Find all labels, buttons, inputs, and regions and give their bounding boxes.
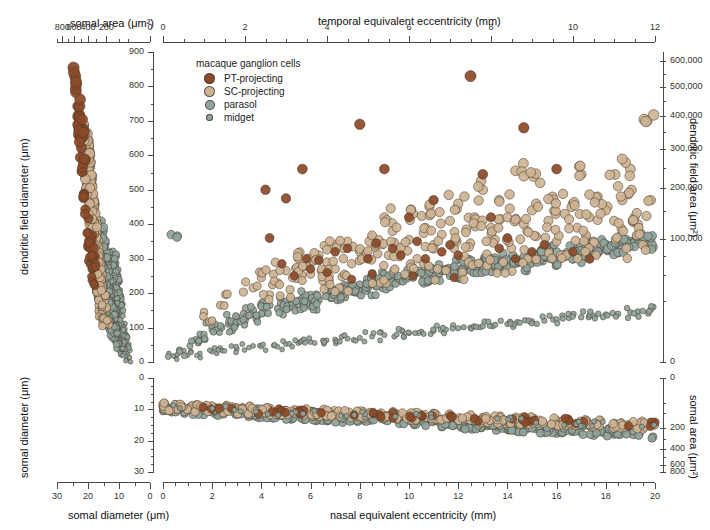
data-point	[189, 350, 194, 355]
data-point	[412, 330, 417, 335]
data-point	[281, 408, 289, 416]
data-point	[254, 319, 261, 326]
data-point	[422, 422, 430, 430]
data-point	[314, 292, 321, 299]
data-point	[520, 246, 529, 255]
data-point	[448, 413, 456, 421]
data-point	[511, 215, 520, 224]
data-point	[519, 123, 529, 133]
data-point	[368, 279, 376, 287]
data-point	[551, 225, 560, 234]
data-point	[302, 254, 311, 263]
data-point	[639, 424, 644, 429]
data-point	[238, 409, 243, 414]
data-point	[372, 239, 381, 248]
data-point	[290, 344, 295, 349]
data-point	[70, 76, 81, 87]
data-point	[624, 422, 632, 430]
data-point	[278, 260, 287, 269]
data-point	[557, 254, 566, 263]
data-point	[338, 413, 343, 418]
data-point	[234, 350, 239, 355]
data-point	[275, 281, 283, 289]
data-point	[444, 190, 454, 200]
data-point	[450, 326, 455, 331]
data-point	[503, 234, 512, 243]
data-point	[80, 209, 89, 218]
data-point	[281, 194, 290, 203]
data-point	[505, 417, 510, 422]
data-point	[625, 315, 631, 321]
data-point	[575, 161, 585, 171]
data-point	[223, 404, 228, 409]
data-point	[401, 334, 406, 339]
data-point	[293, 338, 298, 343]
data-point	[215, 404, 223, 412]
data-point	[261, 342, 266, 347]
data-point	[434, 237, 443, 246]
data-point	[276, 292, 284, 300]
data-point	[173, 233, 181, 241]
data-point	[394, 332, 399, 337]
data-point	[465, 71, 476, 82]
data-point	[265, 296, 273, 304]
data-point	[580, 309, 586, 315]
data-point	[528, 247, 537, 256]
data-point	[641, 246, 650, 255]
data-point	[519, 416, 524, 421]
data-point	[90, 244, 99, 253]
data-point	[357, 292, 364, 299]
data-point	[579, 237, 588, 246]
data-point	[652, 422, 657, 427]
data-point	[547, 313, 553, 319]
data-point	[445, 216, 454, 225]
data-point	[511, 254, 520, 263]
data-point	[456, 326, 461, 331]
data-point	[533, 420, 538, 425]
data-point	[429, 415, 434, 420]
data-point	[177, 349, 183, 355]
data-point	[251, 343, 256, 348]
data-point	[239, 288, 247, 296]
data-point	[401, 238, 410, 247]
data-point	[265, 310, 272, 317]
data-point	[98, 301, 106, 309]
data-point	[440, 325, 445, 330]
main-scatter-plot	[0, 0, 710, 530]
data-point	[339, 254, 348, 263]
data-point	[362, 339, 367, 344]
data-point	[532, 255, 541, 264]
data-point	[431, 276, 439, 284]
data-point	[461, 243, 470, 252]
data-point	[360, 409, 365, 414]
data-point	[79, 192, 88, 201]
data-point	[276, 413, 281, 418]
data-point	[571, 236, 580, 245]
data-point	[560, 316, 566, 322]
data-point	[592, 419, 597, 424]
data-point	[478, 169, 488, 179]
data-point	[297, 164, 307, 174]
data-point	[377, 413, 385, 421]
data-point	[194, 353, 199, 358]
data-point	[171, 403, 176, 408]
data-point	[529, 321, 534, 326]
data-point	[343, 244, 352, 253]
data-point	[570, 201, 579, 210]
data-point	[242, 278, 250, 286]
data-point	[207, 348, 212, 353]
data-point	[551, 199, 560, 208]
data-point	[92, 223, 101, 232]
data-point	[450, 273, 458, 281]
data-point	[401, 270, 409, 278]
data-point	[326, 280, 334, 288]
data-point	[380, 276, 388, 284]
data-point	[312, 408, 317, 413]
data-point	[498, 318, 504, 324]
data-point	[406, 330, 411, 335]
data-point	[499, 258, 508, 267]
data-point	[336, 236, 345, 245]
data-point	[307, 336, 312, 341]
data-point	[474, 259, 483, 268]
data-point	[344, 287, 352, 295]
